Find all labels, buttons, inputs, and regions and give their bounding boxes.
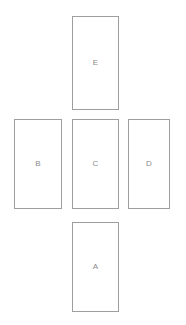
box-d-label: D [146,160,152,168]
diagram-canvas: E B C D A [0,0,186,325]
box-a[interactable]: A [72,222,119,312]
box-c-label: C [93,160,99,168]
box-b[interactable]: B [14,119,62,209]
box-e[interactable]: E [72,16,119,110]
box-e-label: E [93,59,99,67]
box-c[interactable]: C [72,119,119,209]
box-d[interactable]: D [128,119,170,209]
box-a-label: A [93,263,99,271]
box-b-label: B [35,160,41,168]
